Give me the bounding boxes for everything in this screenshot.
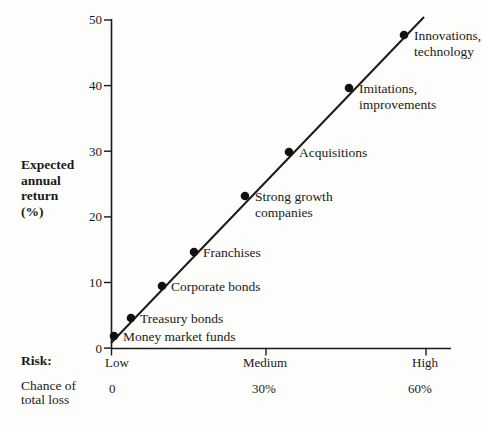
y-axis-ticks: [104, 20, 112, 348]
data-label-franchises: Franchises: [203, 245, 261, 261]
y-tick-label-0: 0: [72, 342, 102, 355]
trend-line: [111, 17, 424, 343]
y-tick-label-50: 50: [72, 13, 102, 26]
risk-row-label: Risk:: [21, 353, 52, 368]
chance-value-60: 60%: [408, 382, 432, 395]
chance-of-total-loss-label: Chance of total loss: [21, 379, 76, 407]
x-tick-label-medium: Medium: [243, 356, 287, 369]
data-point-franchises: [190, 248, 199, 257]
y-tick-label-10: 10: [72, 276, 102, 289]
data-point-corporate-bonds: [158, 282, 167, 291]
y-tick-label-40: 40: [72, 79, 102, 92]
y-tick-label-20: 20: [72, 210, 102, 223]
x-tick-label-low: Low: [105, 356, 129, 369]
data-point-innovations: [400, 31, 409, 40]
x-tick-label-high: High: [412, 356, 438, 369]
figure-canvas: 50 40 30 20 10 0 Expected annual return …: [0, 0, 482, 426]
data-point-treasury-bonds: [127, 314, 136, 323]
data-label-corporate-bonds: Corporate bonds: [171, 279, 261, 295]
data-label-money-market-funds: Money market funds: [123, 329, 235, 345]
chance-value-0: 0: [109, 382, 116, 395]
chance-value-30: 30%: [252, 382, 276, 395]
y-axis-title: Expected annual return (%): [21, 157, 74, 219]
data-point-imitations: [345, 84, 354, 93]
y-tick-label-30: 30: [72, 145, 102, 158]
data-label-acquisitions: Acquisitions: [299, 145, 367, 161]
data-label-imitations-improvements: Imitations, improvements: [359, 81, 436, 112]
data-point-acquisitions: [285, 148, 294, 157]
data-label-innovations-technology: Innovations, technology: [414, 28, 481, 59]
data-point-money-market-funds: [110, 332, 119, 341]
data-point-strong-growth: [241, 192, 250, 201]
data-label-treasury-bonds: Treasury bonds: [140, 311, 223, 327]
data-label-strong-growth-companies: Strong growth companies: [255, 189, 333, 220]
